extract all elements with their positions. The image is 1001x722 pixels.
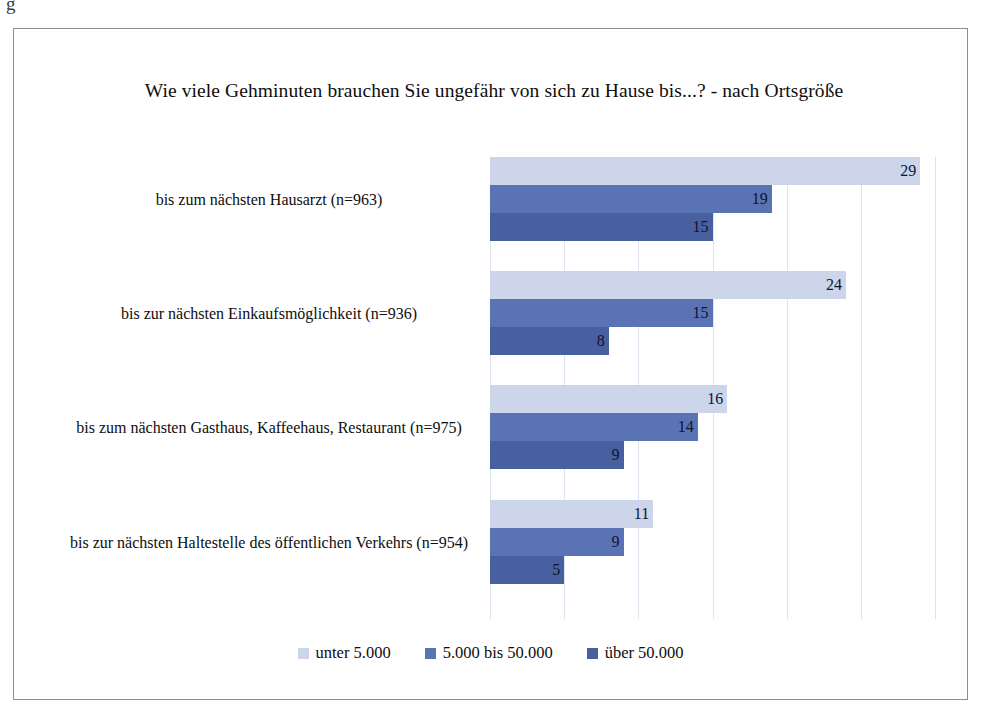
bar-group: 16149 [490, 385, 935, 471]
bar-row: 9 [490, 528, 935, 556]
bar-group: 1195 [490, 500, 935, 586]
legend-item-2[interactable]: über 50.000 [587, 644, 684, 662]
bar-group: 24158 [490, 271, 935, 357]
category-label-2: bis zum nächsten Gasthaus, Kaffeehaus, R… [54, 417, 484, 438]
legend-swatch-icon [298, 648, 309, 659]
bar-group: 291915 [490, 157, 935, 243]
bar-value-label: 16 [689, 389, 723, 409]
legend-swatch-icon [425, 648, 436, 659]
legend-swatch-icon [587, 648, 598, 659]
legend-item-0[interactable]: unter 5.000 [298, 644, 391, 662]
bar-0-0[interactable] [490, 157, 920, 185]
chart-legend: unter 5.0005.000 bis 50.000über 50.000 [14, 644, 967, 662]
bar-value-label: 29 [882, 161, 916, 181]
legend-label: unter 5.000 [316, 644, 391, 662]
bar-row: 19 [490, 185, 935, 213]
bar-value-label: 15 [675, 217, 709, 237]
bar-row: 11 [490, 500, 935, 528]
bar-row: 9 [490, 441, 935, 469]
bar-value-label: 8 [571, 331, 605, 351]
bar-1-0[interactable] [490, 271, 846, 299]
bar-row: 8 [490, 327, 935, 355]
bar-row: 16 [490, 385, 935, 413]
legend-item-1[interactable]: 5.000 bis 50.000 [425, 644, 553, 662]
category-label-0: bis zum nächsten Hausarzt (n=963) [54, 189, 484, 210]
bar-row: 14 [490, 413, 935, 441]
chart-title: Wie viele Gehminuten brauchen Sie ungefä… [104, 77, 884, 104]
category-label-3: bis zur nächsten Haltestelle des öffentl… [54, 532, 484, 553]
scan-artifact-glyph: g [6, 0, 24, 14]
bar-value-label: 14 [660, 417, 694, 437]
bar-value-label: 9 [586, 445, 620, 465]
bar-value-label: 15 [675, 303, 709, 323]
bar-row: 29 [490, 157, 935, 185]
chart-frame: Wie viele Gehminuten brauchen Sie ungefä… [13, 28, 968, 700]
bar-row: 24 [490, 271, 935, 299]
bar-value-label: 9 [586, 532, 620, 552]
bar-row: 5 [490, 556, 935, 584]
bar-row: 15 [490, 213, 935, 241]
bar-value-label: 24 [808, 275, 842, 295]
plot-area: 29191524158161491195 [490, 157, 935, 619]
legend-label: über 50.000 [605, 644, 684, 662]
bar-value-label: 11 [615, 504, 649, 524]
category-label-1: bis zur nächsten Einkaufsmöglichkeit (n=… [54, 303, 484, 324]
bar-value-label: 5 [526, 560, 560, 580]
bar-value-label: 19 [734, 189, 768, 209]
category-axis-labels: bis zum nächsten Hausarzt (n=963)bis zur… [44, 157, 484, 619]
legend-label: 5.000 bis 50.000 [443, 644, 553, 662]
gridline [935, 157, 936, 619]
bar-row: 15 [490, 299, 935, 327]
bar-0-1[interactable] [490, 185, 772, 213]
